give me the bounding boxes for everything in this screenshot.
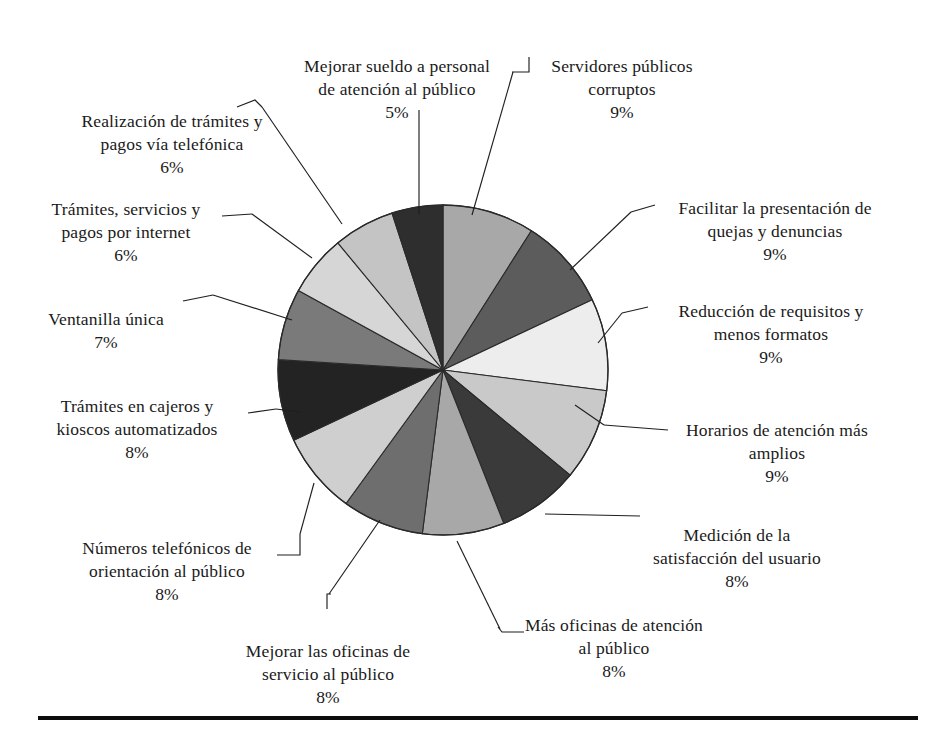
- label-percent: 8%: [218, 686, 438, 709]
- label-servidores-publicos-corruptos: Servidores públicos corruptos 9%: [522, 32, 722, 147]
- label-text: Trámites en cajeros y kioscos automatiza…: [56, 396, 217, 439]
- label-medicion-satisfaccion: Medición de la satisfacción del usuario …: [626, 501, 848, 616]
- label-text: Reducción de requisitos y menos formatos: [678, 301, 863, 344]
- label-text: Mejorar sueldo a personal de atención al…: [304, 56, 490, 99]
- label-text: Trámites, servicios y pagos por internet: [52, 199, 201, 242]
- label-percent: 9%: [658, 465, 896, 488]
- leader-line-mas-oficinas: [457, 541, 500, 629]
- leader-line-tramites-internet: [252, 214, 312, 258]
- label-percent: 8%: [24, 441, 250, 464]
- leader-line-mejorar-oficinas-elbow: [327, 594, 331, 609]
- label-text: Ventanilla única: [48, 309, 164, 329]
- label-percent: 8%: [626, 570, 848, 593]
- pie-slices-group: [278, 205, 608, 535]
- label-percent: 9%: [652, 243, 898, 266]
- label-text: Servidores públicos corruptos: [551, 56, 692, 99]
- label-percent: 6%: [28, 244, 224, 267]
- label-text: Horarios de atención más amplios: [686, 420, 868, 463]
- leader-line-tramites-internet-tick: [222, 214, 252, 216]
- label-mejorar-oficinas: Mejorar las oficinas de servicio al públ…: [218, 617, 438, 732]
- label-ventanilla-unica: Ventanilla única 7%: [27, 285, 185, 377]
- label-facilitar-quejas: Facilitar la presentación de quejas y de…: [652, 174, 898, 289]
- leader-line-numeros-telefonicos-elbow: [277, 534, 300, 555]
- label-text: Facilitar la presentación de quejas y de…: [678, 198, 871, 241]
- label-percent: 9%: [648, 346, 894, 369]
- label-reduccion-requisitos: Reducción de requisitos y menos formatos…: [648, 277, 894, 392]
- label-text: Mejorar las oficinas de servicio al públ…: [246, 641, 410, 684]
- label-text: Más oficinas de atención al público: [525, 615, 703, 658]
- label-percent: 7%: [27, 331, 185, 354]
- label-text: Números telefónicos de orientación al pú…: [82, 538, 252, 581]
- label-percent: 5%: [283, 101, 511, 124]
- label-tramites-internet: Trámites, servicios y pagos por internet…: [28, 175, 224, 290]
- label-text: Realización de trámites y pagos vía tele…: [81, 111, 262, 154]
- pie-chart-figure: Servidores públicos corruptos 9% Mejorar…: [0, 0, 944, 735]
- leader-line-tramites-cajeros-tick: [248, 409, 276, 413]
- leader-line-ventanilla-unica-tick: [183, 295, 213, 301]
- leader-line-mejorar-oficinas: [329, 520, 380, 594]
- label-tramites-cajeros: Trámites en cajeros y kioscos automatiza…: [24, 372, 250, 487]
- label-percent: 9%: [522, 101, 722, 124]
- leader-line-numeros-telefonicos: [300, 483, 314, 534]
- label-text: Medición de la satisfacción del usuario: [653, 525, 821, 568]
- label-horarios-atencion: Horarios de atención más amplios 9%: [658, 396, 896, 511]
- leader-line-facilitar: [570, 212, 631, 270]
- label-percent: 8%: [500, 660, 728, 683]
- label-mejorar-sueldo: Mejorar sueldo a personal de atención al…: [283, 32, 511, 147]
- label-percent: 8%: [55, 583, 279, 606]
- leader-line-reduccion-tick: [622, 307, 648, 313]
- leader-line-ventanilla-unica: [213, 295, 292, 320]
- label-numeros-telefonicos: Números telefónicos de orientación al pú…: [55, 514, 279, 629]
